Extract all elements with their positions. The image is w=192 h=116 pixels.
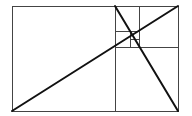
diagonal-lines: [12, 6, 178, 111]
golden-rectangle-diagram: [0, 0, 192, 116]
diagonal-line: [12, 6, 178, 111]
diagonal-line: [115, 6, 178, 111]
diagram-canvas: [0, 0, 192, 116]
